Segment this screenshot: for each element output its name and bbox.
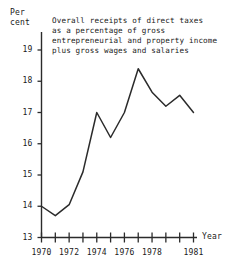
y-tick-label: 17: [15, 108, 33, 117]
x-tick-label: 1978: [137, 248, 167, 257]
x-tick-label: 1972: [54, 248, 84, 257]
data-series-line: [42, 69, 194, 216]
y-tick-label: 16: [15, 139, 33, 148]
x-tick-label: 1970: [27, 248, 57, 257]
y-tick-label: 19: [15, 45, 33, 54]
chart-container: Per cent Overall receipts of direct taxe…: [0, 0, 241, 271]
y-tick-label: 14: [15, 201, 33, 210]
x-axis-label: Year: [202, 232, 222, 241]
x-tick-label: 1976: [109, 248, 139, 257]
y-tick-label: 18: [15, 76, 33, 85]
x-tick-label: 1981: [179, 248, 209, 257]
y-tick-label: 15: [15, 170, 33, 179]
x-tick-label: 1974: [82, 248, 112, 257]
y-tick-label: 13: [15, 233, 33, 242]
chart-plot: [0, 0, 241, 271]
